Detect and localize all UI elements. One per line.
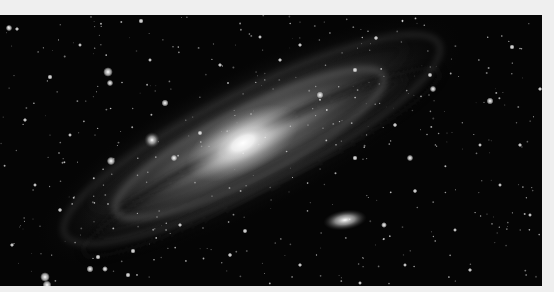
star — [228, 253, 232, 257]
star — [478, 143, 482, 147]
companion-galaxy-small — [144, 132, 160, 148]
star — [413, 189, 417, 193]
star — [40, 272, 50, 282]
star — [403, 263, 407, 267]
star — [258, 35, 262, 39]
star — [352, 67, 357, 72]
star — [78, 43, 82, 47]
star — [407, 155, 413, 161]
star — [102, 266, 108, 272]
star — [58, 208, 62, 212]
star — [486, 97, 493, 104]
star — [538, 87, 542, 91]
star — [125, 272, 130, 277]
galaxy-illustration — [0, 15, 542, 286]
star — [381, 222, 387, 228]
star — [103, 67, 113, 77]
galaxy-photo: Grayscale astrophotograph of a large spi… — [0, 15, 542, 286]
star — [15, 27, 19, 31]
star — [278, 58, 282, 62]
star — [428, 73, 433, 78]
star — [68, 133, 72, 137]
star — [198, 131, 203, 136]
star — [138, 18, 143, 23]
star — [316, 91, 323, 98]
star — [243, 229, 248, 234]
star — [95, 254, 100, 259]
star — [161, 99, 168, 106]
star — [358, 281, 362, 285]
star — [430, 86, 436, 92]
star — [453, 228, 457, 232]
star — [178, 223, 182, 227]
star — [47, 74, 52, 79]
star — [528, 213, 532, 217]
star — [130, 248, 135, 253]
star — [23, 118, 27, 122]
star — [509, 44, 514, 49]
star — [352, 155, 357, 160]
star — [107, 80, 113, 86]
star — [468, 268, 472, 272]
star — [298, 263, 302, 267]
star — [218, 63, 222, 67]
star — [6, 25, 12, 31]
star — [33, 183, 37, 187]
star — [171, 155, 177, 161]
star — [298, 43, 302, 47]
star — [148, 58, 152, 62]
star — [374, 36, 378, 40]
star — [393, 123, 397, 127]
star — [86, 265, 93, 272]
star — [498, 183, 502, 187]
companion-galaxy — [322, 207, 368, 233]
